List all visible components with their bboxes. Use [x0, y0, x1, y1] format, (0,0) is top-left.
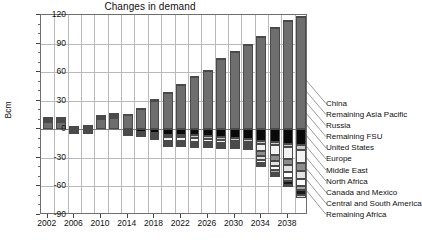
y-tick-minor	[38, 62, 41, 63]
legend-item[interactable]: Canada and Mexico	[326, 187, 422, 198]
y-tick-minor	[38, 109, 41, 110]
bar-segment	[109, 113, 119, 115]
gridline-horizontal	[41, 186, 306, 187]
bar-stack[interactable]	[150, 15, 160, 213]
bar-segment	[136, 135, 146, 137]
y-tick-minor	[38, 81, 41, 82]
bar-segment	[230, 129, 240, 138]
bar-segment	[216, 59, 226, 129]
bar-segment	[216, 58, 226, 60]
bar-segment	[176, 85, 186, 129]
legend-item[interactable]: Remaining FSU	[326, 131, 422, 142]
legend-item[interactable]: Central and South America	[326, 198, 422, 209]
bar-stack[interactable]	[270, 15, 280, 213]
bar-segment	[96, 119, 106, 129]
bar-stack[interactable]	[123, 15, 133, 213]
bar-segment	[69, 132, 79, 134]
gridline-horizontal	[41, 101, 306, 102]
legend-item[interactable]: Remaining Asia Pacific	[326, 109, 422, 120]
bar-segment	[243, 44, 253, 129]
bar-segment	[190, 76, 200, 78]
bar-stack[interactable]	[96, 15, 106, 213]
bar-segment	[270, 27, 280, 129]
bar-segment	[56, 117, 66, 119]
bar-segment	[256, 165, 266, 167]
legend-item[interactable]: Remaining Africa	[326, 209, 422, 220]
bar-stack[interactable]	[190, 15, 200, 213]
y-tick-label: 30	[34, 95, 66, 105]
bar-segment	[283, 20, 293, 22]
bar-segment	[150, 101, 160, 130]
bar-segment	[256, 36, 266, 129]
bar-stack[interactable]	[69, 15, 79, 213]
bar-segment	[43, 117, 53, 119]
bar-segment	[203, 129, 213, 136]
bar-segment	[203, 146, 213, 148]
legend-item[interactable]: China	[326, 98, 422, 109]
bar-segment	[243, 44, 253, 46]
y-tick-minor	[38, 147, 41, 148]
bar-stack[interactable]	[203, 15, 213, 213]
legend-item[interactable]: Europe	[326, 153, 422, 164]
bar-segment	[83, 132, 93, 134]
bar-stack[interactable]	[243, 15, 253, 213]
bar-segment	[256, 36, 266, 38]
gridline-horizontal	[41, 44, 306, 45]
bar-stack[interactable]	[176, 15, 186, 213]
bar-stack[interactable]	[163, 15, 173, 213]
bar-segment	[203, 70, 213, 72]
bar-segment	[283, 159, 293, 166]
bar-segment	[190, 146, 200, 148]
gridline-horizontal	[41, 72, 306, 73]
y-tick-label: 120	[34, 9, 66, 19]
bar-segment	[256, 129, 266, 140]
zero-line	[41, 129, 306, 130]
bar-stack[interactable]	[109, 15, 119, 213]
bar-segment	[83, 125, 93, 127]
bar-segment	[270, 27, 280, 29]
bar-stack[interactable]	[230, 15, 240, 213]
bar-segment	[256, 144, 266, 152]
y-tick-label: 60	[34, 66, 66, 76]
legend-item[interactable]: United States	[326, 142, 422, 153]
y-tick-minor	[38, 166, 41, 167]
bar-segment	[296, 16, 306, 18]
legend: ChinaRemaining Asia PacificRussiaRemaini…	[326, 98, 422, 220]
legend-item[interactable]: North Africa	[326, 176, 422, 187]
bar-segment	[123, 115, 133, 129]
y-axis-label: Bcm	[3, 90, 13, 130]
bar-segment	[270, 129, 280, 142]
bar-segment	[270, 145, 280, 155]
bar-stack[interactable]	[136, 15, 146, 213]
bar-segment	[136, 109, 146, 129]
bar-segment	[203, 71, 213, 130]
y-tick-minor	[38, 176, 41, 177]
bar-segment	[283, 129, 293, 143]
bar-segment	[216, 129, 226, 137]
bar-stack[interactable]	[216, 15, 226, 213]
legend-item[interactable]: Russia	[326, 120, 422, 131]
y-tick-label: 0	[34, 123, 66, 133]
y-tick-label: 90	[34, 38, 66, 48]
bar-segment	[283, 165, 293, 172]
bar-stack[interactable]	[283, 15, 293, 213]
bar-segment	[163, 92, 173, 94]
plot-area	[40, 14, 307, 214]
bar-segment	[123, 134, 133, 136]
bar-segment	[230, 51, 240, 53]
bar-segment	[283, 185, 293, 187]
bar-segment	[243, 148, 253, 150]
bar-segment	[243, 129, 253, 139]
y-tick-minor	[38, 52, 41, 53]
y-tick-minor	[38, 33, 41, 34]
legend-item[interactable]: Middle East	[326, 165, 422, 176]
bar-stack[interactable]	[83, 15, 93, 213]
y-tick-label: -60	[34, 180, 66, 190]
y-tick-minor	[38, 119, 41, 120]
bar-segment	[163, 93, 173, 129]
bar-stack[interactable]	[256, 15, 266, 213]
y-tick-minor	[38, 195, 41, 196]
y-tick-minor	[38, 204, 41, 205]
bar-segment	[190, 77, 200, 129]
plot-inner	[41, 15, 306, 213]
